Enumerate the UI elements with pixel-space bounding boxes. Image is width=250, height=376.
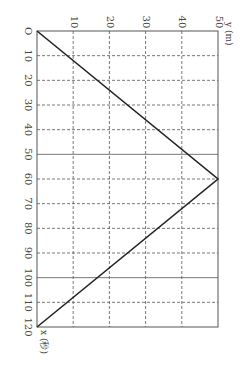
- time-axis-ticks: 102030405060708090100110120: [23, 49, 34, 336]
- y-axis-label: y (m): [224, 21, 234, 46]
- origin-label: O: [23, 27, 34, 35]
- x-tick-label: 20: [23, 74, 34, 87]
- x-tick-label: 110: [23, 293, 34, 312]
- y-tick-label: 40: [177, 16, 188, 29]
- x-tick-label: 40: [23, 123, 34, 136]
- x-axis-label: x (秒): [39, 330, 50, 354]
- x-tick-label: 60: [23, 173, 34, 186]
- x-tick-label: 120: [23, 317, 34, 336]
- x-tick-label: 80: [23, 222, 34, 235]
- y-tick-label: 10: [69, 16, 80, 29]
- distance-axis-ticks: 1020304050: [69, 16, 225, 29]
- rotated-line-chart: 102030405060708090100110120 1020304050 O…: [0, 0, 250, 376]
- x-tick-label: 10: [23, 49, 34, 62]
- y-tick-label: 50: [214, 16, 225, 29]
- x-tick-label: 30: [23, 99, 34, 112]
- grid-lines: [37, 31, 218, 327]
- y-tick-label: 20: [105, 16, 116, 29]
- x-tick-label: 70: [23, 197, 34, 210]
- x-tick-label: 100: [23, 268, 34, 287]
- y-tick-label: 30: [141, 16, 152, 29]
- x-tick-label: 50: [23, 148, 34, 161]
- x-tick-label: 90: [23, 247, 34, 260]
